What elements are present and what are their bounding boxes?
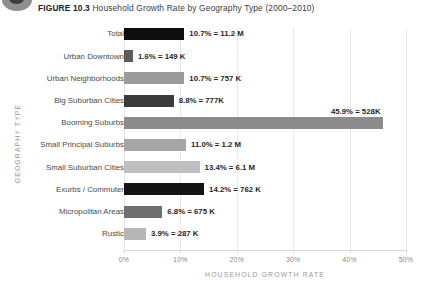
bar-value-label: 6.8% = 675 K xyxy=(167,207,214,216)
figure-number: FIGURE 10.3 xyxy=(38,3,90,13)
chart-row: Booming Suburbs45.9% = 528K xyxy=(0,117,425,139)
category-label: Small Suburban Cities xyxy=(4,163,124,172)
figure-caption-text: Household Growth Rate by Geography Type … xyxy=(92,3,314,13)
figure-container: FIGURE 10.3 Household Growth Rate by Geo… xyxy=(0,0,425,290)
x-axis-tick xyxy=(406,250,407,253)
bar-value-label: 1.6% = 149 K xyxy=(138,52,185,61)
bar[interactable] xyxy=(124,50,133,62)
bar-value-label: 14.2% = 762 K xyxy=(209,185,261,194)
chart-row: Rustic3.9% = 287 K xyxy=(0,228,425,250)
x-axis-tick-label: 0% xyxy=(119,256,130,263)
x-axis-tick-label: 10% xyxy=(173,256,188,263)
category-label: Small Principal Suburbs xyxy=(4,140,124,149)
bar[interactable] xyxy=(124,139,186,151)
bar[interactable] xyxy=(124,161,200,173)
bar[interactable] xyxy=(124,117,383,129)
category-label: Urban Neighborhoods xyxy=(4,74,124,83)
bar[interactable] xyxy=(124,183,204,195)
x-axis-line xyxy=(124,250,406,251)
bar-value-label: 10.7% = 11.2 M xyxy=(189,29,243,38)
chart-row: Small Suburban Cities13.4% = 6.1 M xyxy=(0,161,425,183)
bar-value-label: 3.9% = 287 K xyxy=(151,229,198,238)
bar-value-label: 45.9% = 528K xyxy=(331,107,381,116)
category-label: Total xyxy=(4,29,124,38)
bar-value-label: 13.4% = 6.1 M xyxy=(205,163,256,172)
bar-value-label: 11.0% = 1.2 M xyxy=(191,140,241,149)
bar[interactable] xyxy=(124,28,184,40)
category-label: Exurbs / Commuter xyxy=(4,185,124,194)
x-axis-tick-label: 30% xyxy=(286,256,301,263)
chart-row: Urban Neighborhoods10.7% = 757 K xyxy=(0,72,425,94)
figure-marker-icon xyxy=(2,0,32,11)
bar-value-label: 8.8% = 777K xyxy=(179,96,224,105)
category-label: Booming Suburbs xyxy=(4,118,124,127)
chart-row: Exurbs / Commuter14.2% = 762 K xyxy=(0,183,425,205)
figure-caption: FIGURE 10.3 Household Growth Rate by Geo… xyxy=(38,3,315,13)
bar[interactable] xyxy=(124,206,162,218)
x-axis-tick-label: 40% xyxy=(342,256,357,263)
y-axis-title: GEOGRAPHY TYPE xyxy=(14,89,21,199)
category-label: Rustic xyxy=(4,229,124,238)
chart-row: Small Principal Suburbs11.0% = 1.2 M xyxy=(0,139,425,161)
bar-value-label: 10.7% = 757 K xyxy=(189,74,241,83)
category-label: Micropolitan Areas xyxy=(4,207,124,216)
chart-row: Micropolitan Areas6.8% = 675 K xyxy=(0,206,425,228)
chart-row: Urban Downtown1.6% = 149 K xyxy=(0,50,425,72)
bar[interactable] xyxy=(124,95,174,107)
bar[interactable] xyxy=(124,72,184,84)
x-axis-title: HOUSEHOLD GROWTH RATE xyxy=(124,271,406,278)
category-label: Big Suburban Cities xyxy=(4,96,124,105)
figure-header: FIGURE 10.3 Household Growth Rate by Geo… xyxy=(0,0,425,20)
bar[interactable] xyxy=(124,228,146,240)
x-axis-tick-label: 50% xyxy=(399,256,414,263)
x-axis-tick-label: 20% xyxy=(229,256,244,263)
category-label: Urban Downtown xyxy=(4,52,124,61)
chart-row: Total10.7% = 11.2 M xyxy=(0,28,425,50)
